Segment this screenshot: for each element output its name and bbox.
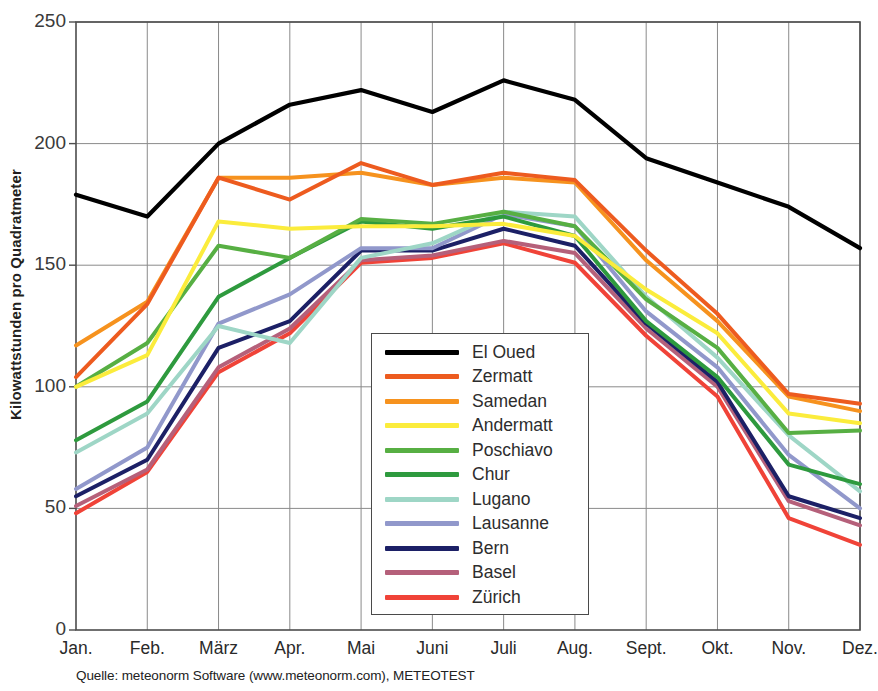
- legend-item[interactable]: El Oued: [372, 340, 588, 365]
- legend-item[interactable]: Bern: [372, 536, 588, 561]
- legend-item[interactable]: Lugano: [372, 487, 588, 512]
- legend-item-label: Lugano: [472, 491, 530, 509]
- legend-item[interactable]: Andermatt: [372, 414, 588, 439]
- x-axis-tick: Dez.: [815, 638, 878, 659]
- legend-color-swatch: [385, 399, 459, 404]
- legend-color-swatch: [385, 350, 459, 355]
- legend-item[interactable]: Zürich: [372, 585, 588, 610]
- legend-color-swatch: [385, 472, 459, 477]
- source-note: Quelle: meteonorm Software (www.meteonor…: [76, 668, 475, 683]
- legend-item[interactable]: Samedan: [372, 389, 588, 414]
- y-axis-tick: 0: [55, 618, 66, 640]
- legend-color-swatch: [385, 423, 459, 428]
- legend-item-label: Bern: [472, 540, 509, 558]
- chart-legend: El OuedZermattSamedanAndermattPoschiavoC…: [371, 333, 589, 615]
- legend-color-swatch: [385, 521, 459, 526]
- legend-item-label: Zermatt: [472, 368, 532, 386]
- chart-container: Globalstrahlung Monatssummen (kWh/m²) Ki…: [0, 0, 878, 691]
- legend-item-label: Poschiavo: [472, 442, 553, 460]
- legend-item-label: Andermatt: [472, 417, 553, 435]
- y-axis-tick: 50: [45, 496, 66, 518]
- legend-item-label: Chur: [472, 466, 510, 484]
- legend-color-swatch: [385, 546, 459, 551]
- legend-item-label: Lausanne: [472, 515, 549, 533]
- legend-color-swatch: [385, 570, 459, 575]
- legend-item-label: Basel: [472, 564, 516, 582]
- legend-color-swatch: [385, 497, 459, 502]
- legend-item[interactable]: Lausanne: [372, 512, 588, 537]
- y-axis-tick: 250: [34, 10, 66, 32]
- y-axis-tick: 150: [34, 253, 66, 275]
- legend-item[interactable]: Poschiavo: [372, 438, 588, 463]
- legend-item-label: Zürich: [472, 589, 521, 607]
- legend-color-swatch: [385, 374, 459, 379]
- legend-item[interactable]: Basel: [372, 561, 588, 586]
- legend-item[interactable]: Chur: [372, 463, 588, 488]
- y-axis-tick-labels: 050100150200250: [14, 0, 66, 691]
- legend-color-swatch: [385, 448, 459, 453]
- y-axis-tick: 100: [34, 375, 66, 397]
- legend-color-swatch: [385, 595, 459, 600]
- legend-item-label: El Oued: [472, 344, 535, 362]
- legend-item-label: Samedan: [472, 393, 547, 411]
- legend-item[interactable]: Zermatt: [372, 365, 588, 390]
- y-axis-tick: 200: [34, 132, 66, 154]
